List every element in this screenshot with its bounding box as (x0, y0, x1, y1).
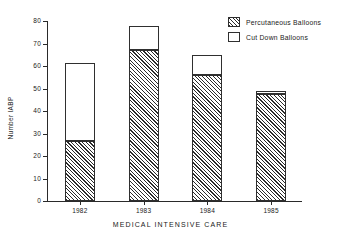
bar-group[interactable] (256, 21, 286, 201)
y-tick (43, 66, 47, 67)
bar-segment-percutaneous[interactable] (65, 141, 95, 201)
x-axis-label: MEDICAL INTENSIVE CARE (0, 221, 341, 228)
y-tick-label: 40 (33, 108, 41, 115)
y-tick-label: 50 (33, 85, 41, 92)
empty-swatch-icon (228, 32, 240, 42)
x-tick (80, 201, 81, 205)
y-tick (43, 44, 47, 45)
legend-item-cut-down: Cut Down Balloons (228, 32, 321, 42)
bar-segment-percutaneous[interactable] (192, 75, 222, 201)
y-tick (43, 111, 47, 112)
x-tick-label: 1985 (263, 207, 278, 214)
plot-area: 01020304050607080 1982198319841985 (47, 21, 302, 202)
bar-group[interactable] (65, 21, 95, 201)
legend-label: Cut Down Balloons (246, 34, 308, 41)
bar-group[interactable] (129, 21, 159, 201)
x-tick-label: 1982 (72, 207, 87, 214)
bar-segment-cut-down[interactable] (129, 26, 159, 51)
x-tick (271, 201, 272, 205)
bar-segment-cut-down[interactable] (192, 55, 222, 75)
y-tick (43, 89, 47, 90)
y-tick (43, 201, 47, 202)
y-tick-label: 10 (33, 175, 41, 182)
legend-item-percutaneous: Percutaneous Balloons (228, 17, 321, 27)
hatched-swatch-icon (228, 17, 240, 27)
bar-segment-percutaneous[interactable] (129, 50, 159, 201)
y-tick (43, 134, 47, 135)
chart-legend: Percutaneous Balloons Cut Down Balloons (228, 17, 321, 42)
y-tick-label: 80 (33, 18, 41, 25)
y-tick-label: 60 (33, 63, 41, 70)
y-tick (43, 179, 47, 180)
bar-segment-cut-down[interactable] (65, 63, 95, 142)
bar-series-container (48, 21, 302, 201)
y-tick-label: 0 (37, 198, 41, 205)
x-tick-label: 1983 (136, 207, 151, 214)
y-tick (43, 156, 47, 157)
legend-label: Percutaneous Balloons (246, 19, 321, 26)
x-tick (207, 201, 208, 205)
y-axis-label: Number IABP (7, 96, 14, 139)
y-tick-label: 70 (33, 40, 41, 47)
chart-figure: Number IABP 01020304050607080 1982198319… (0, 0, 341, 236)
y-tick-label: 20 (33, 153, 41, 160)
bar-segment-percutaneous[interactable] (256, 94, 286, 201)
y-tick-label: 30 (33, 130, 41, 137)
x-tick-label: 1984 (200, 207, 215, 214)
x-axis-line (47, 201, 302, 202)
bar-segment-cut-down[interactable] (256, 91, 286, 94)
x-tick (144, 201, 145, 205)
bar-group[interactable] (192, 21, 222, 201)
y-tick (43, 21, 47, 22)
